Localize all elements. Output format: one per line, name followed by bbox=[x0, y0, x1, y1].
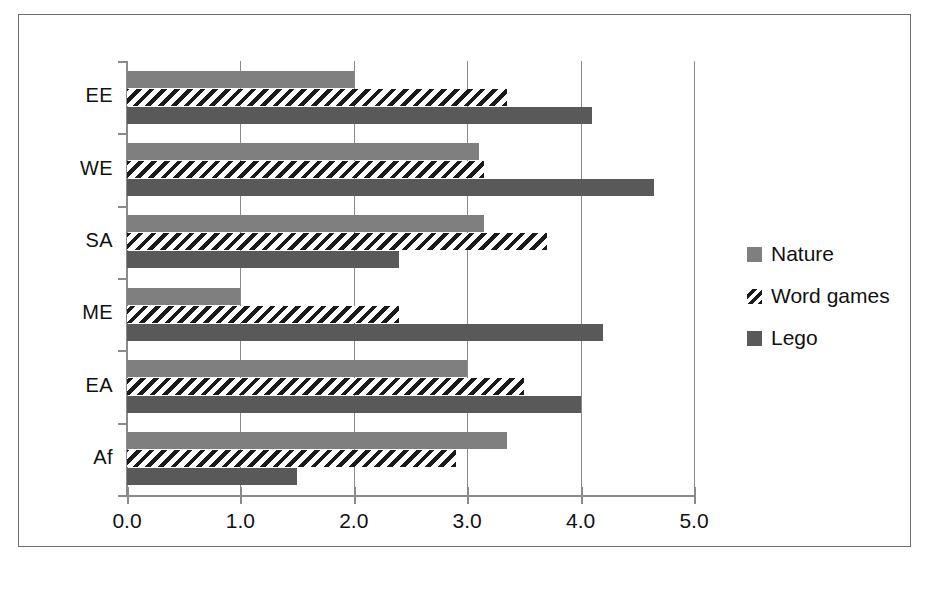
bar-Af-word-games bbox=[127, 450, 456, 467]
bar-EE-lego bbox=[127, 107, 592, 124]
x-tick-label-3.0: 3.0 bbox=[427, 509, 507, 533]
legend: NatureWord gamesLego bbox=[747, 233, 917, 359]
x-tick-label-4.0: 4.0 bbox=[541, 509, 621, 533]
bar-row-EA-word-games bbox=[127, 378, 694, 395]
bar-row-SA-word-games bbox=[127, 233, 694, 250]
y-axis-labels: EEWESAMEEAAf bbox=[33, 61, 113, 495]
x-axis-line bbox=[127, 495, 695, 497]
x-tick-3.0 bbox=[467, 487, 469, 504]
bar-row-ME-nature bbox=[127, 288, 694, 305]
legend-item-word-games[interactable]: Word games bbox=[747, 275, 917, 317]
legend-label: Lego bbox=[771, 326, 818, 350]
bar-Af-lego bbox=[127, 468, 297, 485]
bar-Af-nature bbox=[127, 432, 507, 449]
bar-row-WE-word-games bbox=[127, 161, 694, 178]
legend-swatch-icon-nature bbox=[747, 247, 762, 262]
bar-row-Af-lego bbox=[127, 468, 694, 485]
y-tick-label-SA: SA bbox=[43, 229, 113, 252]
bar-ME-word-games bbox=[127, 306, 399, 323]
gridline-5.0 bbox=[694, 61, 695, 495]
bar-row-ME-word-games bbox=[127, 306, 694, 323]
y-tick-5 bbox=[118, 423, 127, 425]
x-tick-label-1.0: 1.0 bbox=[200, 509, 280, 533]
legend-item-nature[interactable]: Nature bbox=[747, 233, 917, 275]
x-tick-label-5.0: 5.0 bbox=[654, 509, 734, 533]
bar-group-WE bbox=[127, 133, 694, 205]
bar-SA-lego bbox=[127, 251, 399, 268]
y-tick-label-ME: ME bbox=[43, 301, 113, 324]
x-tick-label-2.0: 2.0 bbox=[314, 509, 394, 533]
legend-item-lego[interactable]: Lego bbox=[747, 317, 917, 359]
bar-EA-word-games bbox=[127, 378, 524, 395]
bar-group-EE bbox=[127, 61, 694, 133]
y-tick-1 bbox=[118, 133, 127, 135]
bar-ME-lego bbox=[127, 324, 603, 341]
y-tick-edge-1 bbox=[118, 495, 127, 497]
bar-row-EE-lego bbox=[127, 107, 694, 124]
bar-group-EA bbox=[127, 350, 694, 422]
bar-WE-lego bbox=[127, 179, 654, 196]
bar-group-SA bbox=[127, 206, 694, 278]
bar-row-ME-lego bbox=[127, 324, 694, 341]
bar-row-EE-nature bbox=[127, 71, 694, 88]
y-tick-label-WE: WE bbox=[43, 157, 113, 180]
x-tick-5.0 bbox=[694, 487, 696, 504]
y-tick-label-EE: EE bbox=[43, 84, 113, 107]
bar-row-EA-nature bbox=[127, 360, 694, 377]
y-tick-3 bbox=[118, 278, 127, 280]
legend-swatch-icon-word-games bbox=[747, 289, 762, 304]
legend-label: Word games bbox=[771, 284, 890, 308]
bar-row-WE-nature bbox=[127, 143, 694, 160]
x-tick-4.0 bbox=[581, 487, 583, 504]
legend-swatch-icon-lego bbox=[747, 331, 762, 346]
chart-frame: EEWESAMEEAAf 0.01.02.03.04.05.0 NatureWo… bbox=[18, 14, 911, 547]
bar-row-EE-word-games bbox=[127, 89, 694, 106]
bar-row-SA-nature bbox=[127, 215, 694, 232]
bar-WE-nature bbox=[127, 143, 479, 160]
bar-row-Af-word-games bbox=[127, 450, 694, 467]
y-tick-label-EA: EA bbox=[43, 374, 113, 397]
bar-group-Af bbox=[127, 423, 694, 495]
bar-row-EA-lego bbox=[127, 396, 694, 413]
bar-WE-word-games bbox=[127, 161, 484, 178]
bar-EE-nature bbox=[127, 71, 354, 88]
x-tick-1.0 bbox=[240, 487, 242, 504]
bar-EA-nature bbox=[127, 360, 467, 377]
figure: EEWESAMEEAAf 0.01.02.03.04.05.0 NatureWo… bbox=[0, 0, 931, 592]
y-tick-label-Af: Af bbox=[43, 446, 113, 469]
bar-row-SA-lego bbox=[127, 251, 694, 268]
legend-label: Nature bbox=[771, 242, 834, 266]
y-tick-4 bbox=[118, 350, 127, 352]
bar-row-Af-nature bbox=[127, 432, 694, 449]
bar-SA-nature bbox=[127, 215, 484, 232]
bar-group-ME bbox=[127, 278, 694, 350]
bar-EA-lego bbox=[127, 396, 581, 413]
bar-row-WE-lego bbox=[127, 179, 694, 196]
y-tick-2 bbox=[118, 206, 127, 208]
bar-ME-nature bbox=[127, 288, 240, 305]
plot-area bbox=[127, 61, 694, 495]
bar-SA-word-games bbox=[127, 233, 547, 250]
y-tick-edge-0 bbox=[118, 61, 127, 63]
x-tick-label-0.0: 0.0 bbox=[87, 509, 167, 533]
bar-EE-word-games bbox=[127, 89, 507, 106]
x-tick-2.0 bbox=[354, 487, 356, 504]
x-tick-0.0 bbox=[127, 487, 129, 504]
